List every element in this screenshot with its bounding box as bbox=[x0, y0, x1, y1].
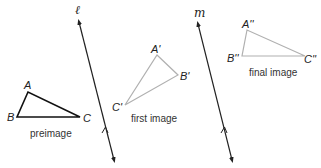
vertex-label-a: A bbox=[23, 79, 31, 91]
line-l-tick-icon bbox=[102, 127, 108, 133]
vertex-label-b-prime: B' bbox=[180, 70, 190, 82]
first-image-triangle: A' B' C' first image bbox=[112, 43, 190, 124]
line-m-label: m bbox=[194, 6, 205, 20]
vertex-label-a-prime: A' bbox=[150, 43, 161, 55]
vertex-label-c: C bbox=[83, 112, 91, 124]
final-image-caption: final image bbox=[249, 67, 298, 78]
preimage-triangle: A B C preimage bbox=[7, 79, 91, 139]
vertex-label-c-double-prime: C'' bbox=[304, 53, 317, 65]
preimage-caption: preimage bbox=[30, 128, 72, 139]
vertex-label-c-prime: C' bbox=[112, 101, 123, 113]
vertex-label-a-double-prime: A'' bbox=[241, 18, 254, 30]
final-image-triangle: A'' B'' C'' final image bbox=[227, 18, 317, 78]
reflection-diagram: ℓ m A B C preimage A' B' C' first image … bbox=[0, 0, 321, 168]
line-l: ℓ bbox=[75, 3, 114, 160]
first-image-caption: first image bbox=[131, 113, 178, 124]
vertex-label-b: B bbox=[7, 111, 14, 123]
line-l-label: ℓ bbox=[75, 3, 80, 17]
line-m: m bbox=[194, 6, 232, 160]
vertex-label-b-double-prime: B'' bbox=[227, 52, 239, 64]
